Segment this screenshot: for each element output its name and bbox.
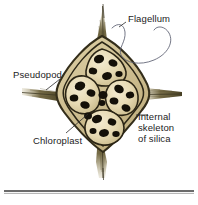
label-flagellum: Flagellum (128, 13, 170, 24)
label-internal-skeleton: Internal skeleton of silica (138, 111, 196, 144)
label-internal-line-2: skeleton (138, 122, 196, 133)
cell-left (66, 76, 101, 114)
cell-right (106, 80, 139, 115)
label-internal-line-1: Internal (138, 111, 196, 122)
bottom-divider (4, 191, 194, 193)
figure-container: Flagellum Pseudopod Chloroplast Internal… (0, 0, 198, 205)
label-internal-line-3: of silica (138, 133, 196, 144)
label-chloroplast: Chloroplast (33, 135, 82, 146)
silicoflagellate-illustration (0, 0, 198, 205)
label-pseudopod: Pseudopod (13, 69, 62, 80)
